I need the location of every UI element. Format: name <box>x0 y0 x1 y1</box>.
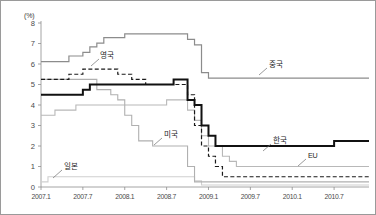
series-leader-line <box>154 138 162 145</box>
series-line-eu <box>41 100 369 167</box>
x-axis-tick-label: 2007.1 <box>32 193 52 200</box>
series-label-united-states: 미국 <box>164 130 178 139</box>
chart-plot-area: 0123456782007.12007.72008.12008.72009.12… <box>1 1 376 215</box>
series-leader-line <box>91 59 99 66</box>
x-axis-tick-label: 2009.7 <box>241 193 261 200</box>
series-line-china <box>41 34 369 78</box>
series-label-eu: EU <box>308 151 318 160</box>
series-leader-line <box>259 68 267 75</box>
policy-rate-line-chart: 0123456782007.12007.72008.12008.72009.12… <box>1 1 376 215</box>
series-leader-line <box>298 159 306 166</box>
series-label-united-kingdom: 영국 <box>100 50 114 60</box>
x-axis-tick-label: 2010.1 <box>283 193 303 200</box>
y-axis-tick-label: 3 <box>31 121 35 130</box>
y-axis-tick-label: 5 <box>31 80 35 89</box>
series-label-korea: 한국 <box>273 136 287 145</box>
y-axis-tick-label: 8 <box>31 19 35 28</box>
series-label-japan: 일본 <box>64 162 78 171</box>
chart-figure: (%) 0123456782007.12007.72008.12008.7200… <box>0 0 376 215</box>
y-axis-tick-label: 4 <box>31 101 35 110</box>
y-axis-tick-label: 2 <box>31 142 35 151</box>
x-axis-tick-label: 2008.7 <box>157 193 177 200</box>
x-axis-tick-label: 2010.7 <box>325 193 345 200</box>
y-axis-tick-label: 1 <box>31 162 35 171</box>
y-axis-tick-label: 0 <box>31 183 35 192</box>
y-axis-tick-label: 6 <box>31 60 35 69</box>
x-axis-tick-label: 2007.7 <box>73 193 93 200</box>
x-axis-tick-label: 2009.1 <box>199 193 219 200</box>
y-axis-tick-label: 7 <box>31 39 35 48</box>
x-axis-tick-label: 2008.1 <box>115 193 135 200</box>
series-label-china: 중국 <box>269 60 283 69</box>
series-line-japan <box>41 177 369 185</box>
